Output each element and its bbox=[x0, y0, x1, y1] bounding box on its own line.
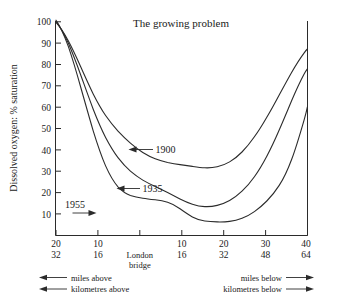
footer-label-km-below: kilometres below bbox=[223, 284, 283, 294]
series-line-1900 bbox=[56, 22, 307, 167]
x-tick-km-32: 32 bbox=[219, 250, 229, 260]
x-ticks bbox=[56, 230, 308, 236]
origin-label-bridge: bridge bbox=[129, 260, 151, 270]
y-tick-label-80: 80 bbox=[42, 60, 52, 70]
footer-miles-above: miles above bbox=[39, 273, 112, 283]
footer-label-km-above: kilometres above bbox=[71, 284, 130, 294]
x-tick-km-minus16: 16 bbox=[93, 250, 103, 260]
y-tick-label-70: 70 bbox=[42, 81, 52, 91]
y-ticks bbox=[56, 22, 62, 214]
chart-figure: The growing problem Dissolved oxygen: % … bbox=[0, 0, 337, 305]
series-label-1955: 1955 bbox=[65, 199, 85, 210]
x-tick-km-16: 16 bbox=[177, 250, 187, 260]
footer-km-above: kilometres above bbox=[39, 284, 130, 294]
y-tick-label-30: 30 bbox=[42, 167, 52, 177]
footer-km-below: kilometres below bbox=[223, 284, 314, 294]
series-annotation-1935: 1935 bbox=[117, 183, 163, 194]
y-tick-label-100: 100 bbox=[37, 17, 52, 27]
y-tick-label-40: 40 bbox=[42, 146, 52, 156]
footer-label-miles-below: miles below bbox=[241, 273, 283, 283]
y-tick-label-90: 90 bbox=[42, 39, 52, 49]
x-tick-miles-10: 10 bbox=[177, 239, 187, 249]
x-tick-km-64: 64 bbox=[301, 250, 311, 260]
series-label-1935: 1935 bbox=[143, 183, 163, 194]
series-annotation-1900: 1900 bbox=[129, 144, 176, 155]
x-tick-miles-minus20: 20 bbox=[51, 239, 61, 249]
series-line-1935 bbox=[56, 21, 307, 206]
x-tick-miles-minus10: 10 bbox=[93, 239, 103, 249]
x-tick-miles-40: 40 bbox=[301, 239, 311, 249]
y-tick-label-10: 10 bbox=[42, 210, 52, 220]
series-annotation-1955: 1955 bbox=[65, 199, 97, 216]
chart-title: The growing problem bbox=[133, 17, 229, 29]
x-tick-miles-30: 30 bbox=[261, 239, 271, 249]
footer-label-miles-above: miles above bbox=[71, 273, 112, 283]
series-line-1955 bbox=[56, 20, 307, 222]
x-tick-miles-20: 20 bbox=[219, 239, 229, 249]
x-tick-km-minus32: 32 bbox=[51, 250, 61, 260]
y-tick-label-50: 50 bbox=[42, 124, 52, 134]
chart-svg: The growing problem Dissolved oxygen: % … bbox=[0, 0, 337, 305]
y-tick-label-20: 20 bbox=[42, 188, 52, 198]
y-axis-title: Dissolved oxygen: % saturation bbox=[8, 64, 19, 191]
origin-label-london: London bbox=[127, 250, 154, 260]
footer-miles-below: miles below bbox=[241, 273, 314, 283]
series-label-1900: 1900 bbox=[156, 144, 176, 155]
y-tick-label-60: 60 bbox=[42, 103, 52, 113]
x-tick-km-48: 48 bbox=[261, 250, 271, 260]
